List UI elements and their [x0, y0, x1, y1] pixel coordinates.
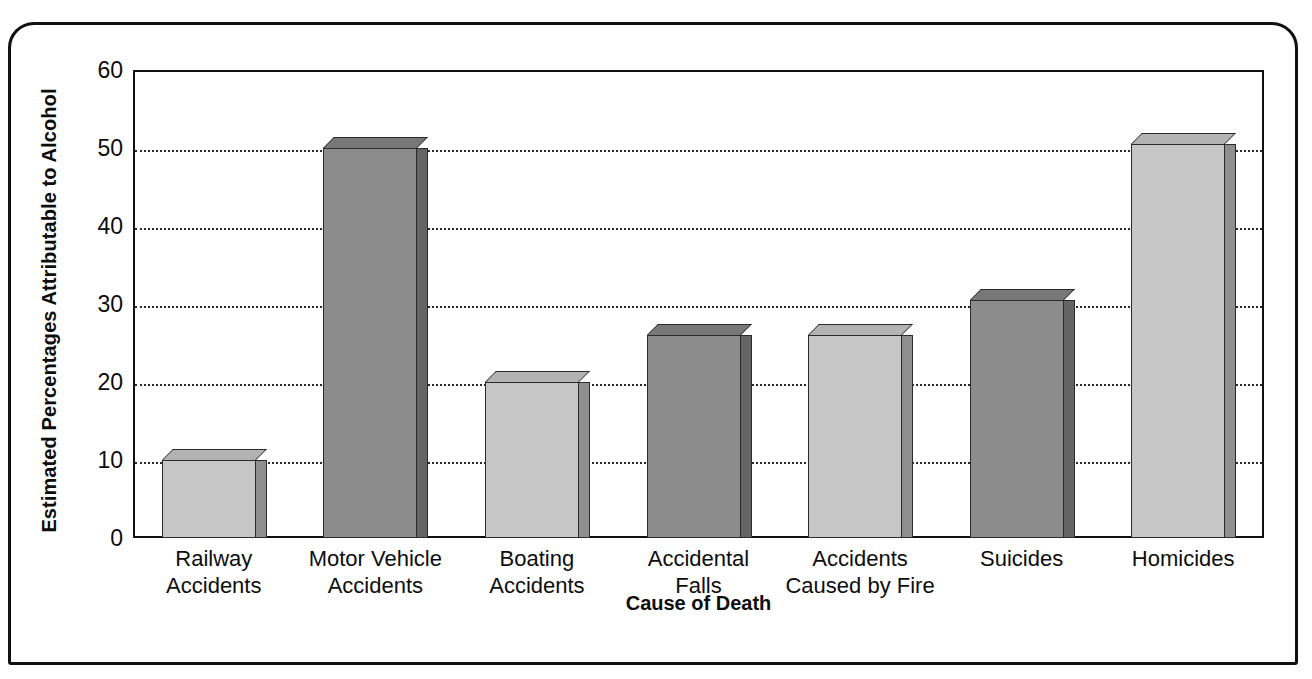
x-axis-tick-label: Motor VehicleAccidents: [295, 545, 457, 599]
gridline: [135, 306, 1262, 308]
chart-screenshot: Estimated Percentages Attributable to Al…: [0, 0, 1312, 679]
gridline: [135, 384, 1262, 386]
y-axis-tick-label: 60: [63, 57, 123, 84]
gridline: [135, 228, 1262, 230]
x-axis-tick-label: Suicides: [941, 545, 1103, 572]
plot-area: [133, 70, 1264, 538]
bar-chart: Estimated Percentages Attributable to Al…: [0, 0, 1312, 679]
y-axis-tick-label: 10: [63, 447, 123, 474]
x-axis-tick-label: RailwayAccidents: [133, 545, 295, 599]
y-axis-tick-label: 50: [63, 135, 123, 162]
gridline: [135, 150, 1262, 152]
y-axis-tick-label: 30: [63, 291, 123, 318]
x-axis-tick-label: BoatingAccidents: [456, 545, 618, 599]
y-axis-tick-labels: 0102030405060: [55, 70, 123, 538]
gridlines: [135, 72, 1262, 536]
y-axis-tick-label: 20: [63, 369, 123, 396]
x-axis-tick-label: Homicides: [1102, 545, 1264, 572]
y-axis-tick-label: 40: [63, 213, 123, 240]
y-axis-tick-label: 0: [63, 525, 123, 552]
x-axis-tick-label: AccidentalFalls: [618, 545, 780, 599]
x-axis-tick-label: AccidentsCaused by Fire: [779, 545, 941, 599]
x-axis-title: Cause of Death: [133, 592, 1264, 615]
gridline: [135, 462, 1262, 464]
